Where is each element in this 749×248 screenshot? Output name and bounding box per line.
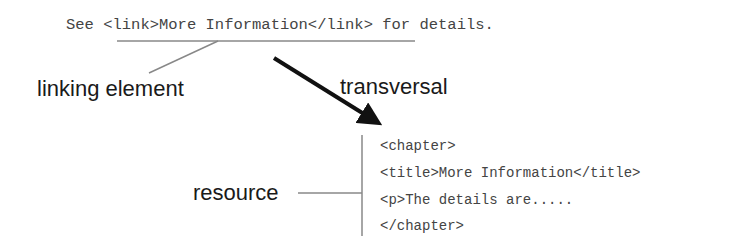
transversal-label: transversal (340, 74, 448, 100)
code-line: <p>The details are..... (380, 192, 573, 208)
code-line: <chapter> (380, 138, 456, 154)
resource-label: resource (193, 180, 279, 206)
linking-element-pointer (149, 41, 218, 73)
code-line: </chapter> (380, 218, 464, 234)
code-line: <title>More Information</title> (380, 165, 640, 181)
diagram-connectors (0, 0, 749, 248)
linking-element-label: linking element (37, 76, 184, 102)
